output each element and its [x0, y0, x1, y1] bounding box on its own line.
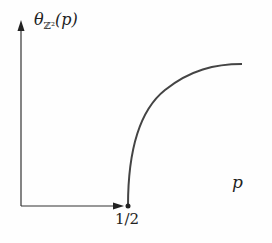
x-axis-label: p: [232, 172, 243, 192]
y-axis-arrow-icon: [18, 20, 25, 31]
plot-area: [0, 0, 272, 243]
x-axis-arrow-icon: [113, 203, 124, 210]
x-tick-half: 1/2: [115, 210, 139, 228]
y-axis-label: θℤ²(p): [34, 10, 78, 31]
theta-curve: [128, 64, 242, 206]
chart: θℤ²(p) p 1/2: [0, 0, 272, 243]
critical-point-dot: [126, 204, 131, 209]
